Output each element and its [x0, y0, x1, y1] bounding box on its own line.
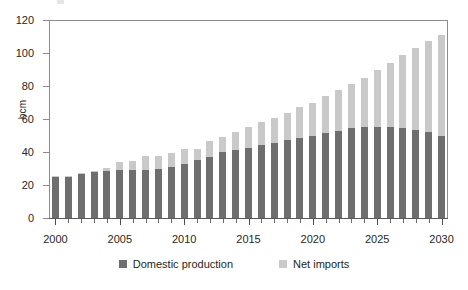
bar-segment-domestic-production — [232, 150, 239, 218]
bar-2024 — [361, 78, 368, 218]
bar-segment-net-imports — [142, 156, 149, 170]
bar-segment-net-imports — [206, 141, 213, 157]
bar-2003 — [91, 171, 98, 218]
bar-segment-net-imports — [129, 161, 136, 170]
x-tick-major: 2000 — [55, 219, 56, 225]
x-tick-minor — [236, 219, 237, 223]
x-tick-label: 2005 — [108, 233, 132, 245]
y-tick-label: 20 — [22, 179, 34, 191]
bar-segment-domestic-production — [103, 171, 110, 218]
bar-2015 — [245, 127, 252, 218]
bar-segment-net-imports — [258, 122, 265, 145]
bar-2023 — [348, 84, 355, 218]
x-tick-minor — [403, 219, 404, 223]
bar-2029 — [425, 41, 432, 218]
y-tick: 100 — [43, 53, 49, 54]
bar-segment-net-imports — [335, 90, 342, 130]
legend-swatch-net-imports — [279, 260, 287, 268]
x-tick-minor — [300, 219, 301, 223]
bar-segment-domestic-production — [219, 152, 226, 218]
bar-segment-net-imports — [65, 176, 72, 177]
y-tick-label: 60 — [22, 113, 34, 125]
bar-segment-domestic-production — [245, 148, 252, 218]
bar-2021 — [322, 96, 329, 218]
bar-segment-domestic-production — [387, 127, 394, 218]
bar-segment-net-imports — [168, 153, 175, 167]
bar-segment-net-imports — [116, 162, 123, 170]
chart-legend: Domestic production Net imports — [0, 258, 468, 270]
bar-segment-domestic-production — [258, 145, 265, 218]
bar-segment-domestic-production — [155, 169, 162, 219]
y-tick-label: 120 — [16, 14, 34, 26]
x-tick-minor — [339, 219, 340, 223]
x-tick-label: 2000 — [43, 233, 67, 245]
bar-segment-domestic-production — [322, 133, 329, 218]
plot-frame-right — [447, 20, 448, 219]
bar-segment-net-imports — [103, 168, 110, 171]
plot-frame-top — [49, 20, 448, 21]
bar-segment-net-imports — [374, 70, 381, 127]
bar-segment-domestic-production — [181, 164, 188, 218]
y-tick-label: 100 — [16, 47, 34, 59]
bar-2011 — [194, 149, 201, 218]
bar-2016 — [258, 122, 265, 218]
bar-2012 — [206, 141, 213, 218]
x-tick-major: 2005 — [120, 219, 121, 225]
bar-segment-net-imports — [245, 127, 252, 148]
x-tick-minor — [326, 219, 327, 223]
bar-2020 — [309, 103, 316, 218]
bar-segment-net-imports — [296, 107, 303, 138]
bar-segment-net-imports — [219, 137, 226, 152]
bar-segment-domestic-production — [284, 140, 291, 218]
x-tick-major: 2030 — [442, 219, 443, 225]
bar-segment-domestic-production — [399, 128, 406, 218]
bar-2022 — [335, 90, 342, 218]
x-tick-label: 2010 — [172, 233, 196, 245]
bar-segment-domestic-production — [361, 127, 368, 218]
y-tick: 80 — [43, 86, 49, 87]
scan-artifact — [57, 0, 64, 4]
bar-segment-net-imports — [155, 156, 162, 168]
x-tick-minor — [287, 219, 288, 223]
chart-figure: bcm 020406080100120 20002005201020152020… — [0, 0, 468, 290]
bar-segment-net-imports — [232, 132, 239, 150]
x-tick-major: 2025 — [377, 219, 378, 225]
bar-segment-net-imports — [78, 173, 85, 174]
legend-item-net-imports: Net imports — [279, 258, 349, 270]
bar-2008 — [155, 156, 162, 218]
bar-segment-net-imports — [181, 149, 188, 165]
bar-segment-net-imports — [412, 48, 419, 130]
x-tick-minor — [210, 219, 211, 223]
bar-segment-net-imports — [348, 84, 355, 129]
bar-segment-domestic-production — [425, 132, 432, 218]
x-tick-minor — [94, 219, 95, 223]
bar-segment-domestic-production — [374, 127, 381, 218]
x-tick-minor — [81, 219, 82, 223]
y-tick: 120 — [43, 20, 49, 21]
bar-segment-net-imports — [322, 96, 329, 133]
x-tick-minor — [223, 219, 224, 223]
bar-segment-domestic-production — [271, 143, 278, 218]
bar-segment-net-imports — [387, 63, 394, 127]
legend-label-domestic-production: Domestic production — [133, 258, 233, 270]
bar-2010 — [181, 149, 188, 218]
bar-2026 — [387, 63, 394, 218]
x-tick-minor — [197, 219, 198, 223]
bar-2030 — [438, 35, 445, 218]
bar-segment-net-imports — [425, 41, 432, 132]
bar-2014 — [232, 132, 239, 218]
x-tick-label: 2025 — [365, 233, 389, 245]
bar-2017 — [271, 118, 278, 218]
bar-segment-domestic-production — [194, 160, 201, 218]
bar-segment-domestic-production — [52, 177, 59, 218]
bar-segment-domestic-production — [78, 173, 85, 218]
x-tick-minor — [133, 219, 134, 223]
bar-2013 — [219, 137, 226, 218]
plot-area: 020406080100120 200020052010201520202025… — [49, 20, 448, 219]
legend-swatch-domestic-production — [119, 260, 127, 268]
y-tick: 40 — [43, 152, 49, 153]
y-tick: 0 — [43, 218, 49, 219]
x-tick-minor — [261, 219, 262, 223]
legend-label-net-imports: Net imports — [293, 258, 349, 270]
x-tick-minor — [364, 219, 365, 223]
